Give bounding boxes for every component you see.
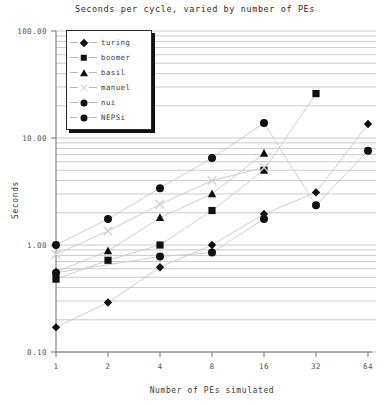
x-tick-label: 64 bbox=[363, 362, 373, 371]
data-point bbox=[104, 257, 111, 264]
data-point bbox=[208, 249, 216, 257]
x-tick-label: 4 bbox=[158, 362, 163, 371]
y-tick-label: 0.10 bbox=[27, 348, 47, 357]
legend-item-nepsi[interactable]: NEPSi bbox=[70, 110, 147, 125]
data-point bbox=[260, 149, 268, 157]
legend-line-swatch bbox=[70, 117, 78, 118]
legend-item-label: turing bbox=[101, 38, 130, 47]
data-point bbox=[312, 201, 320, 209]
data-point bbox=[208, 190, 216, 198]
x-tick-label: 32 bbox=[311, 362, 321, 371]
data-point bbox=[208, 241, 216, 249]
legend-item-nui[interactable]: nui bbox=[70, 95, 147, 110]
legend-line-swatch bbox=[89, 72, 97, 73]
data-point bbox=[156, 241, 163, 248]
data-point bbox=[104, 215, 112, 223]
circle-marker-icon bbox=[78, 97, 89, 108]
data-point bbox=[364, 120, 372, 128]
data-point bbox=[260, 215, 268, 223]
legend-item-label: nui bbox=[101, 98, 116, 107]
data-point bbox=[312, 188, 320, 196]
data-point bbox=[156, 200, 164, 208]
circle-marker-icon bbox=[78, 112, 89, 123]
legend-line-swatch bbox=[70, 102, 78, 103]
x-axis-label: Number of PEs simulated bbox=[150, 386, 275, 395]
plot-area: 100.0010.001.000.101248163264 Seconds Nu… bbox=[0, 0, 390, 405]
legend-line-swatch bbox=[89, 87, 97, 88]
data-point bbox=[156, 263, 164, 271]
legend-line-swatch bbox=[89, 117, 97, 118]
legend-item-basil[interactable]: basil bbox=[70, 65, 147, 80]
y-axis-label: Seconds bbox=[11, 181, 20, 219]
data-point bbox=[104, 247, 112, 255]
data-point bbox=[260, 119, 268, 127]
x-tick-label: 16 bbox=[259, 362, 269, 371]
data-point bbox=[52, 269, 60, 277]
legend-item-label: NEPSi bbox=[101, 113, 126, 122]
diamond-marker-icon bbox=[78, 37, 89, 48]
legend-item-boomer[interactable]: boomer bbox=[70, 50, 147, 65]
data-point bbox=[104, 227, 112, 235]
legend-line-swatch bbox=[70, 42, 78, 43]
data-point bbox=[156, 184, 164, 192]
x-tick-label: 2 bbox=[106, 362, 111, 371]
legend-line-swatch bbox=[89, 42, 97, 43]
legend-line-swatch bbox=[70, 72, 78, 73]
legend-item-manuel[interactable]: manuel bbox=[70, 80, 147, 95]
chart-container: Seconds per cycle, varied by number of P… bbox=[0, 0, 390, 405]
data-point bbox=[312, 90, 319, 97]
legend-line-swatch bbox=[89, 57, 97, 58]
data-point bbox=[208, 207, 215, 214]
cross-marker-icon bbox=[78, 82, 89, 93]
x-tick-label: 1 bbox=[54, 362, 59, 371]
triangle-marker-icon bbox=[78, 67, 89, 78]
x-tick-label: 8 bbox=[210, 362, 215, 371]
data-point bbox=[52, 323, 60, 331]
legend-item-label: boomer bbox=[101, 53, 130, 62]
data-point bbox=[104, 298, 112, 306]
y-tick-label: 10.00 bbox=[22, 134, 47, 143]
legend-item-label: basil bbox=[101, 68, 126, 77]
data-point bbox=[208, 154, 216, 162]
data-point bbox=[156, 213, 164, 221]
legend: turingboomerbasilmanuelnuiNEPSi bbox=[66, 30, 152, 130]
legend-line-swatch bbox=[70, 87, 78, 88]
legend-line-swatch bbox=[89, 102, 97, 103]
legend-item-turing[interactable]: turing bbox=[70, 35, 147, 50]
y-tick-label: 1.00 bbox=[27, 241, 47, 250]
series-line bbox=[56, 123, 368, 245]
data-point bbox=[52, 241, 60, 249]
square-marker-icon bbox=[78, 52, 89, 63]
y-tick-label: 100.00 bbox=[17, 27, 47, 36]
legend-line-swatch bbox=[70, 57, 78, 58]
data-point bbox=[364, 147, 372, 155]
legend-item-label: manuel bbox=[101, 83, 130, 92]
data-point bbox=[156, 253, 164, 261]
